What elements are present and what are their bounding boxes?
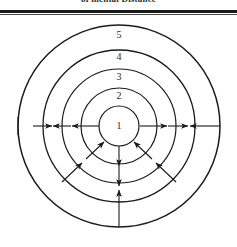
arrow-lower-left-inner xyxy=(86,142,104,159)
arrow-lower-right-outer xyxy=(156,163,176,182)
figure-page: of mental Distance xyxy=(0,0,237,247)
ring-label-3: 3 xyxy=(117,71,122,82)
ring-label-1: 1 xyxy=(117,120,122,131)
diagram-canvas: 5 4 3 2 1 xyxy=(0,14,237,247)
concentric-circle-diagram: 5 4 3 2 1 xyxy=(0,14,237,247)
arrow-lower-left-outer xyxy=(62,163,82,182)
figure-caption-clipped: of mental Distance xyxy=(0,0,237,5)
header-rule-thick xyxy=(0,10,237,13)
ring-labels: 5 4 3 2 1 xyxy=(117,29,122,131)
ring-label-4: 4 xyxy=(117,51,122,62)
ring-label-2: 2 xyxy=(117,90,122,101)
ring-label-5: 5 xyxy=(117,29,122,40)
arrow-lower-right-inner xyxy=(134,142,152,159)
